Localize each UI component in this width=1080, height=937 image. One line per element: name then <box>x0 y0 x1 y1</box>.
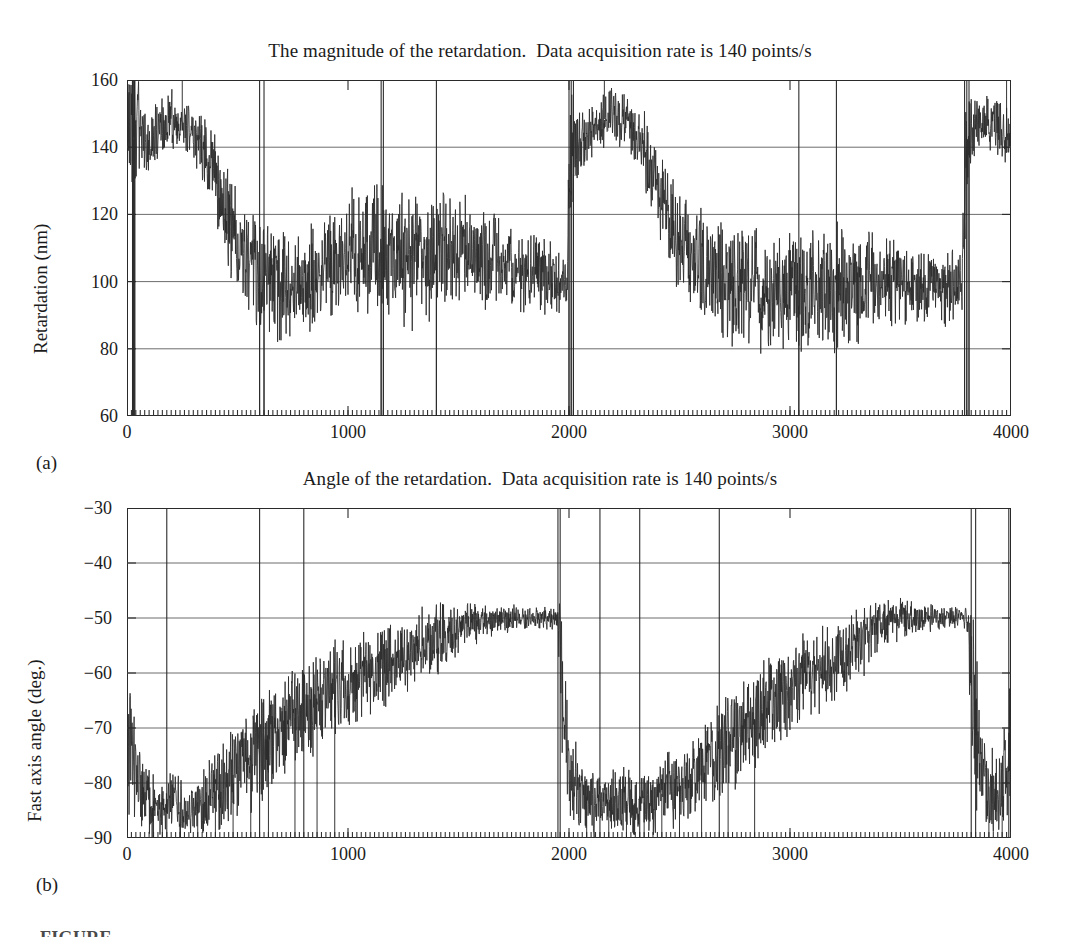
panel-label-b: (b) <box>36 874 58 896</box>
y-tick-label: 160 <box>91 70 118 91</box>
plot-area-a <box>127 80 1011 416</box>
x-tick-label: 3000 <box>772 422 808 443</box>
chart-canvas-b <box>127 508 1011 838</box>
y-axis-ticks-b: −90−80−70−60−50−40−30 <box>56 508 112 838</box>
figure-container: The magnitude of the retardation. Data a… <box>0 0 1080 937</box>
x-tick-label: 0 <box>123 422 132 443</box>
plot-area-b <box>127 508 1011 838</box>
x-tick-label: 3000 <box>772 844 808 865</box>
y-axis-ticks-a: 6080100120140160 <box>62 80 118 416</box>
y-axis-label-a: Retardation (nm) <box>30 224 52 354</box>
chart-title-a: The magnitude of the retardation. Data a… <box>0 40 1080 62</box>
y-tick-label: 60 <box>100 406 118 427</box>
y-axis-label-b: Fast axis angle (deg.) <box>24 659 46 822</box>
y-tick-label: −50 <box>84 608 112 629</box>
x-tick-label: 0 <box>123 844 132 865</box>
y-tick-label: 120 <box>91 204 118 225</box>
x-tick-label: 2000 <box>551 844 587 865</box>
figure-caption-partial: FIGURE <box>40 928 1040 937</box>
chart-title-b: Angle of the retardation. Data acquisiti… <box>0 468 1080 490</box>
y-tick-label: −40 <box>84 553 112 574</box>
x-tick-label: 4000 <box>993 422 1029 443</box>
x-tick-label: 1000 <box>330 422 366 443</box>
y-tick-label: −30 <box>84 498 112 519</box>
y-tick-label: 140 <box>91 137 118 158</box>
y-tick-label: −80 <box>84 773 112 794</box>
y-tick-label: 100 <box>91 271 118 292</box>
x-tick-label: 1000 <box>330 844 366 865</box>
x-axis-ticks-a: 01000200030004000 <box>127 422 1011 446</box>
panel-a: The magnitude of the retardation. Data a… <box>0 24 1080 474</box>
x-axis-ticks-b: 01000200030004000 <box>127 844 1011 868</box>
x-tick-label: 4000 <box>993 844 1029 865</box>
y-tick-label: 80 <box>100 338 118 359</box>
y-tick-label: −70 <box>84 718 112 739</box>
panel-b: Angle of the retardation. Data acquisiti… <box>0 462 1080 902</box>
x-tick-label: 2000 <box>551 422 587 443</box>
y-tick-label: −60 <box>84 663 112 684</box>
chart-canvas-a <box>127 80 1011 416</box>
y-tick-label: −90 <box>84 828 112 849</box>
